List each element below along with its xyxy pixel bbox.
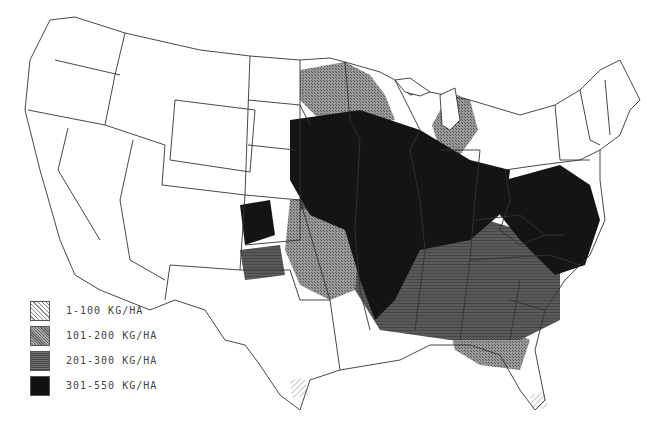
legend-item-101-200: 101-200 KG/HA [30, 323, 157, 348]
legend-label: 101-200 KG/HA [66, 330, 157, 341]
legend-label: 301-550 KG/HA [66, 380, 157, 391]
legend-item-1-100: 1-100 KG/HA [30, 298, 157, 323]
legend-item-201-300: 201-300 KG/HA [30, 348, 157, 373]
dense-grid-swatch-icon [30, 351, 50, 371]
legend-label: 1-100 KG/HA [66, 305, 143, 316]
solid-swatch-icon [30, 376, 50, 396]
class-1-100-regions [290, 378, 548, 410]
map-legend: 1-100 KG/HA 101-200 KG/HA 201-300 KG/HA … [30, 298, 157, 398]
light-hatch-swatch-icon [30, 301, 50, 321]
legend-label: 201-300 KG/HA [66, 355, 157, 366]
legend-item-301-550: 301-550 KG/HA [30, 373, 157, 398]
crosshatch-swatch-icon [30, 326, 50, 346]
